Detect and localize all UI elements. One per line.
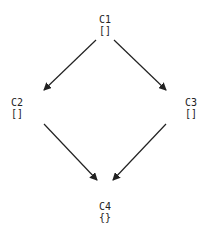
node-value: [] xyxy=(2,108,32,119)
dependency-diagram: C1 [] C2 [] C3 [] C4 {} xyxy=(0,0,209,227)
node-label: C1 xyxy=(90,14,120,25)
node-value: {} xyxy=(90,212,120,223)
node-label: C2 xyxy=(2,97,32,108)
node-c2: C2 [] xyxy=(2,97,32,119)
edge-c1-c2 xyxy=(44,40,96,90)
node-label: C3 xyxy=(176,97,206,108)
node-value: [] xyxy=(90,25,120,36)
node-c1: C1 [] xyxy=(90,14,120,36)
edge-c1-c3 xyxy=(114,40,166,90)
node-c3: C3 [] xyxy=(176,97,206,119)
edge-c3-c4 xyxy=(113,124,166,180)
node-label: C4 xyxy=(90,201,120,212)
node-c4: C4 {} xyxy=(90,201,120,223)
node-value: [] xyxy=(176,108,206,119)
edge-c2-c4 xyxy=(44,124,97,180)
